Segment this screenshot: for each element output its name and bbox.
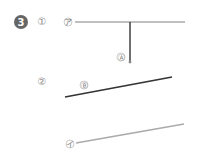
perpendicular-segment: Ⓐ <box>117 22 131 63</box>
svg-text:ア: ア <box>64 18 72 27</box>
point-b-label: Ⓑ <box>81 82 88 90</box>
line-i: イ <box>66 124 184 149</box>
part-2-label: ② <box>38 76 47 87</box>
line-b: Ⓑ <box>65 77 172 97</box>
svg-text:3: 3 <box>18 17 25 28</box>
line-a-horizontal: ア <box>64 18 185 27</box>
problem-number-badge: 3 <box>14 15 28 29</box>
part-1-label: ① <box>38 16 47 27</box>
point-a-label: Ⓐ <box>118 54 125 62</box>
diagram: 3 ① ア Ⓐ ② Ⓑ イ <box>0 0 205 155</box>
svg-text:イ: イ <box>66 140 74 149</box>
